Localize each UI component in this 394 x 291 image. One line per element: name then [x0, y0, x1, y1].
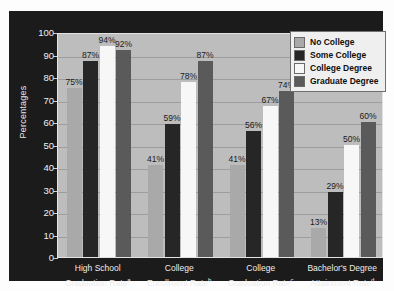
chart-legend: No CollegeSome CollegeCollege DegreeGrad…: [290, 31, 386, 92]
bar-group: 75%87%94%92%: [58, 34, 140, 257]
bar[interactable]: [328, 192, 343, 257]
y-axis-tick-label: 80: [24, 72, 54, 83]
bar[interactable]: [83, 61, 98, 257]
legend-label: Some College: [310, 50, 366, 60]
bar[interactable]: [148, 165, 163, 257]
legend-swatch-icon: [294, 63, 305, 74]
y-axis-tick-label: 20: [24, 207, 54, 218]
bar[interactable]: [311, 228, 326, 257]
bar-group: 41%59%78%87%: [140, 34, 222, 257]
legend-label: Graduate Degree: [310, 76, 379, 86]
legend-item[interactable]: No College: [294, 36, 381, 48]
y-axis-title: Percentages: [18, 52, 28, 172]
chart-panel: Percentages 0102030405060708090100 75%87…: [9, 11, 383, 281]
y-axis-tick-label: 0: [24, 252, 54, 263]
bar[interactable]: [230, 165, 245, 257]
legend-label: No College: [310, 37, 354, 47]
bar[interactable]: [361, 122, 376, 257]
y-axis-tick-label: 30: [24, 185, 54, 196]
y-axis-tick-label: 90: [24, 50, 54, 61]
y-axis-tick-mark: [53, 258, 58, 259]
bar[interactable]: [165, 124, 180, 257]
bar[interactable]: [279, 91, 294, 258]
bar-value-label: 87%: [194, 50, 217, 60]
bar-value-label: 60%: [357, 111, 380, 121]
x-axis-label: Bachelor's DegreeAttainment Rated: [294, 263, 392, 289]
legend-item[interactable]: Graduate Degree: [294, 75, 381, 87]
bar-value-label: 92%: [112, 39, 135, 49]
legend-swatch-icon: [294, 76, 305, 87]
y-axis-tick-label: 40: [24, 162, 54, 173]
legend-item[interactable]: College Degree: [294, 62, 381, 74]
legend-item[interactable]: Some College: [294, 49, 381, 61]
bar[interactable]: [344, 145, 359, 258]
y-axis-tick-label: 100: [24, 27, 54, 38]
bar[interactable]: [263, 106, 278, 257]
y-axis-tick-label: 60: [24, 117, 54, 128]
bar[interactable]: [246, 131, 261, 257]
bar[interactable]: [67, 88, 82, 257]
y-axis-tick-label: 70: [24, 95, 54, 106]
bar[interactable]: [181, 82, 196, 258]
legend-swatch-icon: [294, 37, 305, 48]
legend-label: College Degree: [310, 63, 372, 73]
legend-swatch-icon: [294, 50, 305, 61]
y-axis-tick-label: 50: [24, 140, 54, 151]
bar[interactable]: [116, 50, 131, 257]
y-axis-tick-label: 10: [24, 230, 54, 241]
chart-figure: Percentages 0102030405060708090100 75%87…: [0, 0, 394, 291]
bar[interactable]: [198, 61, 213, 257]
bar[interactable]: [100, 46, 115, 258]
